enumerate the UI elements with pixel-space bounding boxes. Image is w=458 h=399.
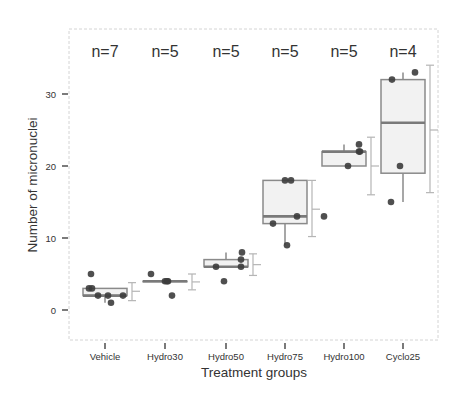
- data-point: [95, 292, 102, 299]
- sample-size-label: n=5: [151, 43, 178, 60]
- x-tick-label: Hydro75: [267, 351, 303, 362]
- data-point: [120, 292, 127, 299]
- data-point: [88, 271, 95, 278]
- x-axis: VehicleHydro30Hydro50Hydro75Hydro100Cycl…: [90, 343, 420, 362]
- data-point: [388, 199, 395, 206]
- y-axis-title: Number of micronuclei: [25, 117, 40, 252]
- data-point: [270, 220, 277, 227]
- y-tick-label: 0: [51, 305, 56, 316]
- y-axis: 0102030: [45, 89, 68, 316]
- data-point: [221, 278, 228, 285]
- data-point: [105, 292, 112, 299]
- data-point: [284, 242, 291, 249]
- data-point: [288, 177, 295, 184]
- y-tick-label: 20: [45, 161, 56, 172]
- data-point: [239, 249, 246, 256]
- data-point: [148, 271, 155, 278]
- data-point: [412, 69, 419, 76]
- y-tick-label: 10: [45, 233, 56, 244]
- data-point: [389, 76, 396, 83]
- data-point: [321, 213, 328, 220]
- data-point: [357, 148, 364, 155]
- sample-size-label: n=5: [330, 43, 357, 60]
- x-tick-label: Cyclo25: [386, 351, 420, 362]
- data-point: [238, 256, 245, 263]
- sample-size-label: n=7: [91, 43, 118, 60]
- data-point: [89, 285, 96, 292]
- sample-size-label: n=4: [389, 43, 416, 60]
- box-plot-chart: n=7n=5n=5n=5n=5n=4 0102030 VehicleHydro3…: [0, 0, 458, 399]
- x-tick-label: Hydro50: [208, 351, 244, 362]
- chart-canvas: n=7n=5n=5n=5n=5n=4 0102030 VehicleHydro3…: [0, 0, 458, 399]
- data-point: [356, 141, 363, 148]
- x-tick-label: Vehicle: [90, 351, 121, 362]
- sample-size-label: n=5: [271, 43, 298, 60]
- y-tick-label: 30: [45, 89, 56, 100]
- data-point: [108, 300, 115, 307]
- x-tick-label: Hydro30: [147, 351, 183, 362]
- x-tick-label: Hydro100: [323, 351, 364, 362]
- data-point: [294, 213, 301, 220]
- data-point: [169, 292, 176, 299]
- x-axis-title: Treatment groups: [201, 365, 307, 380]
- data-point: [238, 264, 245, 271]
- box-rect: [381, 80, 425, 174]
- data-point: [213, 264, 220, 271]
- data-point: [282, 177, 289, 184]
- data-point: [345, 163, 352, 170]
- sample-size-label: n=5: [212, 43, 239, 60]
- data-point: [397, 163, 404, 170]
- data-point: [164, 278, 171, 285]
